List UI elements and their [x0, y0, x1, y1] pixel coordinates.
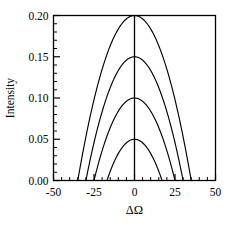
- y-tick-label: 0.10: [28, 92, 48, 104]
- x-axis-title: ΔΩ: [126, 203, 143, 217]
- y-tick-label: 0.15: [28, 51, 48, 63]
- x-tick-label: 0: [132, 186, 138, 198]
- chart-background: [0, 0, 237, 228]
- chart-figure: 0.000.050.100.150.20 -50-2502550 ΔΩ Inte…: [0, 0, 237, 228]
- y-tick-label: 0.20: [28, 10, 48, 22]
- x-tick-label: 50: [210, 186, 222, 198]
- x-tick-label: 25: [169, 186, 181, 198]
- y-axis-title: Intensity: [4, 78, 17, 118]
- x-tick-label: -25: [86, 186, 102, 198]
- intensity-vs-delta-omega-chart: 0.000.050.100.150.20 -50-2502550 ΔΩ Inte…: [0, 0, 237, 228]
- x-tick-label: -50: [46, 186, 62, 198]
- y-tick-label: 0.05: [28, 133, 48, 145]
